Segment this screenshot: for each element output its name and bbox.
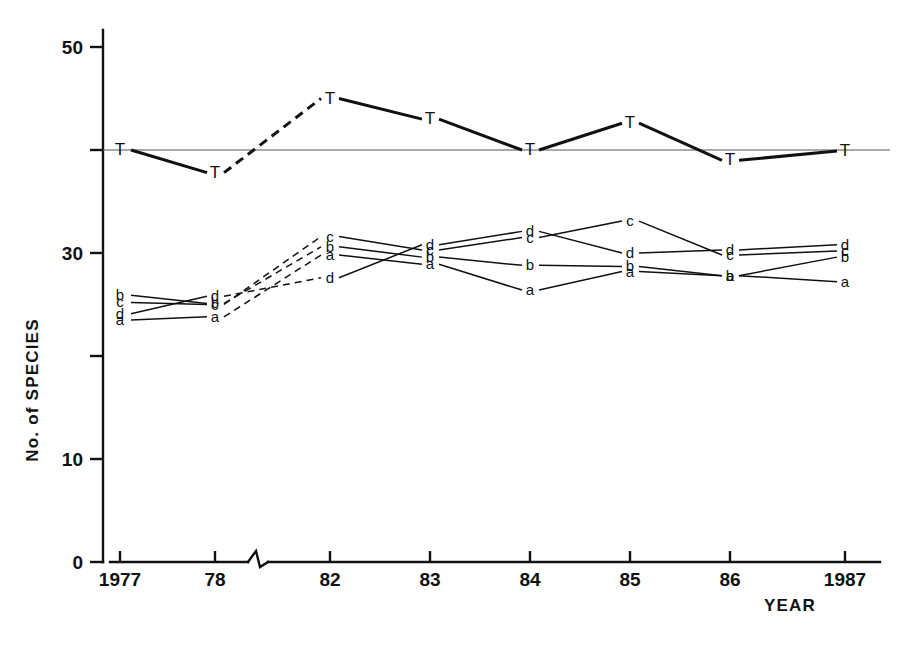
data-point-label-T: T bbox=[210, 163, 220, 182]
series-segment bbox=[339, 99, 422, 120]
series-T: TTTTTTTT bbox=[115, 89, 850, 182]
data-point-label-T: T bbox=[625, 113, 635, 132]
data-point-label-a: a bbox=[526, 281, 535, 298]
series-segment bbox=[639, 250, 722, 253]
data-point-label-d: d bbox=[211, 287, 219, 304]
series-segment bbox=[131, 317, 207, 320]
y-axis-title: No. of SPECIES bbox=[23, 318, 42, 461]
data-point-label-a: a bbox=[841, 273, 850, 290]
series-segment bbox=[739, 251, 837, 255]
series-segment bbox=[739, 151, 837, 160]
data-point-label-d: d bbox=[426, 236, 434, 253]
data-point-label-c: c bbox=[626, 212, 634, 229]
series-segment bbox=[339, 255, 422, 264]
data-point-label-T: T bbox=[525, 140, 535, 159]
series-segment bbox=[739, 276, 837, 282]
x-tick-label: 83 bbox=[419, 569, 440, 590]
x-tick-label: 84 bbox=[519, 569, 541, 590]
x-tick-label: 1987 bbox=[824, 569, 866, 590]
series-segment bbox=[439, 264, 522, 290]
data-point-label-d: d bbox=[841, 236, 849, 253]
series-segment bbox=[539, 231, 622, 253]
data-point-label-d: d bbox=[116, 305, 124, 322]
data-point-label-d: d bbox=[326, 269, 334, 286]
data-point-label-T: T bbox=[115, 140, 125, 159]
series-segment bbox=[339, 245, 422, 278]
y-tick-label: 50 bbox=[62, 37, 83, 58]
y-tick-label: 0 bbox=[72, 552, 83, 573]
data-point-label-b: b bbox=[726, 267, 734, 284]
axis-break-icon bbox=[248, 551, 268, 567]
series-d: dddddddd bbox=[116, 222, 849, 321]
series-segment bbox=[439, 119, 522, 150]
species-line-chart: 0103050No. of SPECIES1977788283848586198… bbox=[0, 0, 904, 646]
series-b: bbbbbbbb bbox=[116, 238, 849, 312]
series-segment bbox=[539, 123, 622, 150]
data-point-label-T: T bbox=[725, 150, 735, 169]
x-tick-label: 86 bbox=[719, 569, 740, 590]
data-point-label-T: T bbox=[840, 141, 850, 160]
series-segment-break bbox=[224, 99, 321, 173]
data-point-label-c: c bbox=[326, 228, 334, 245]
y-tick-label: 30 bbox=[62, 243, 83, 264]
chart-figure: 0103050No. of SPECIES1977788283848586198… bbox=[0, 0, 904, 646]
series-segment bbox=[439, 231, 522, 244]
data-point-label-b: b bbox=[526, 256, 534, 273]
x-axis-title: YEAR bbox=[764, 596, 816, 615]
data-point-label-T: T bbox=[325, 89, 335, 108]
x-tick-label: 82 bbox=[319, 569, 340, 590]
series-segment bbox=[739, 257, 837, 276]
x-tick-label: 1977 bbox=[99, 569, 141, 590]
series-segment bbox=[539, 265, 622, 266]
data-point-label-d: d bbox=[526, 222, 534, 239]
series-c: cccccccc bbox=[116, 212, 849, 312]
series-segment-break bbox=[224, 278, 321, 297]
series-segment bbox=[439, 238, 522, 250]
series-a: aaaaaaaa bbox=[116, 246, 850, 328]
y-tick-label: 10 bbox=[62, 449, 83, 470]
series-segment-break bbox=[224, 255, 321, 317]
data-point-label-T: T bbox=[425, 109, 435, 128]
series-segment bbox=[439, 257, 522, 265]
series-segment bbox=[639, 123, 722, 160]
x-tick-label: 78 bbox=[204, 569, 225, 590]
series-segment bbox=[539, 272, 622, 291]
series-segment bbox=[739, 245, 837, 250]
data-point-label-d: d bbox=[726, 241, 734, 258]
x-tick-label: 85 bbox=[619, 569, 641, 590]
series-segment-break bbox=[224, 237, 321, 305]
data-point-label-d: d bbox=[626, 244, 634, 261]
series-segment bbox=[131, 150, 207, 173]
